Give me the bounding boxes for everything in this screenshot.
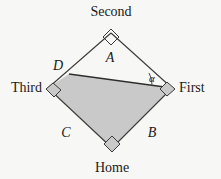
point-label-d: D (52, 58, 63, 73)
side-label-b: B (148, 125, 157, 140)
vertex-label-second: Second (90, 4, 131, 19)
vertex-label-first: First (179, 80, 205, 95)
angle-label-alpha: α (149, 72, 155, 84)
region-label-a: A (105, 50, 115, 65)
vertex-label-third: Third (11, 80, 42, 95)
side-label-c: C (61, 125, 71, 140)
edge-second-first (111, 33, 172, 88)
right-angle-mark-second (103, 29, 119, 45)
vertex-label-home: Home (95, 160, 129, 175)
geometry-diagram: Second Third First Home D A B C α (0, 0, 221, 179)
baseball-diamond-figure: Second Third First Home D A B C α (0, 0, 221, 179)
